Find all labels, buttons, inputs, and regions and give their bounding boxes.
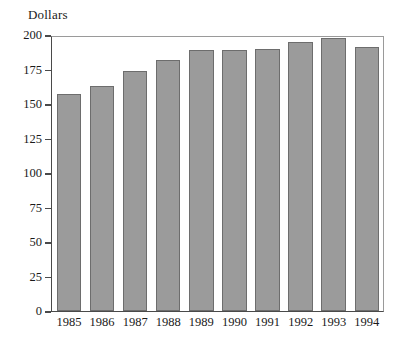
y-axis-tick-mark bbox=[45, 70, 51, 71]
y-axis-tick-mark bbox=[45, 277, 51, 278]
y-axis-tick-label: 125 bbox=[23, 132, 42, 147]
x-axis-tick-label: 1985 bbox=[52, 315, 85, 330]
bar bbox=[288, 42, 312, 311]
y-axis-tick-mark bbox=[45, 104, 51, 105]
y-axis-tick-label: 150 bbox=[23, 97, 42, 112]
x-axis-tick-label: 1989 bbox=[185, 315, 218, 330]
bar bbox=[255, 49, 279, 311]
x-axis-tick-label: 1993 bbox=[317, 315, 350, 330]
bar bbox=[222, 50, 246, 311]
x-axis-tick-label: 1987 bbox=[119, 315, 152, 330]
bar bbox=[57, 94, 81, 311]
y-axis-tick-label: 100 bbox=[23, 166, 42, 181]
bar bbox=[321, 38, 345, 311]
y-axis-tick-label: 25 bbox=[30, 270, 43, 285]
bar bbox=[123, 71, 147, 311]
bar bbox=[189, 50, 213, 311]
bar-rect bbox=[57, 94, 81, 311]
y-axis-tick-label: 200 bbox=[23, 28, 42, 43]
y-axis-tick-label: 50 bbox=[30, 235, 43, 250]
y-axis-tick-mark bbox=[45, 173, 51, 174]
bar bbox=[90, 86, 114, 311]
x-axis-tick-label: 1988 bbox=[152, 315, 185, 330]
bar-rect bbox=[355, 47, 379, 311]
y-axis-tick-mark bbox=[45, 139, 51, 140]
x-axis-tick-label: 1992 bbox=[284, 315, 317, 330]
bar-rect bbox=[321, 38, 345, 311]
bar-rect bbox=[123, 71, 147, 311]
y-axis-tick-mark bbox=[45, 35, 51, 36]
x-axis-tick-label: 1990 bbox=[218, 315, 251, 330]
bar-chart-figure: Dollars 0255075100125150175200 198519861… bbox=[0, 0, 396, 346]
y-axis-tick-label: 0 bbox=[36, 304, 42, 319]
x-axis-tick-label: 1994 bbox=[350, 315, 383, 330]
y-axis-tick-mark bbox=[45, 311, 51, 312]
bar-rect bbox=[189, 50, 213, 311]
bars-layer bbox=[52, 37, 383, 311]
y-axis-tick-mark bbox=[45, 242, 51, 243]
x-axis-tick-label: 1991 bbox=[251, 315, 284, 330]
bar-rect bbox=[288, 42, 312, 311]
bar-rect bbox=[90, 86, 114, 311]
bar bbox=[156, 60, 180, 311]
bar-rect bbox=[222, 50, 246, 311]
y-axis-tick-label: 175 bbox=[23, 63, 42, 78]
x-axis-tick-label: 1986 bbox=[85, 315, 118, 330]
x-axis-ticks: 1985198619871988198919901991199219931994 bbox=[52, 315, 383, 337]
y-axis-title: Dollars bbox=[28, 8, 68, 22]
y-axis-tick-mark bbox=[45, 208, 51, 209]
bar-rect bbox=[156, 60, 180, 311]
y-axis-tick-label: 75 bbox=[30, 201, 43, 216]
bar-rect bbox=[255, 49, 279, 311]
bar bbox=[355, 47, 379, 311]
